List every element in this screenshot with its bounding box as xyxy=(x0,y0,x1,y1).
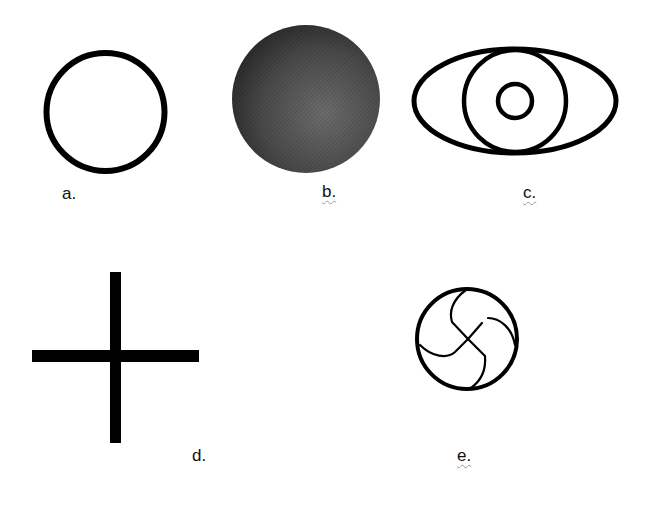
figure-canvas xyxy=(0,0,656,508)
figure-b-label: b. xyxy=(322,183,336,200)
figure-a-circle xyxy=(47,53,165,171)
figure-e-swirl-circle xyxy=(417,289,517,389)
figure-d-cross xyxy=(32,272,199,443)
figure-a-label: a. xyxy=(62,185,76,202)
figure-d-label: d. xyxy=(192,447,206,464)
figure-c-eye xyxy=(414,49,616,153)
figure-e-label: e. xyxy=(457,447,471,464)
figure-c-label: c. xyxy=(523,184,536,201)
figure-b-filled-circle xyxy=(232,25,380,173)
